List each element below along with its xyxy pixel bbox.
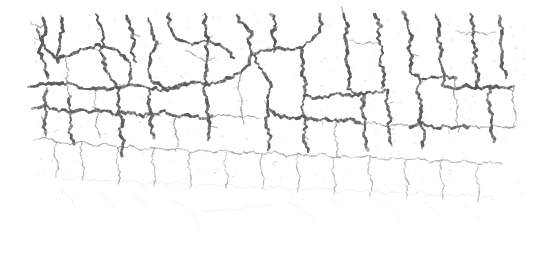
- crack-network-canvas: [0, 0, 540, 258]
- crack-pattern-image: Crack Pattern Segmentation Map Binarized…: [0, 0, 540, 258]
